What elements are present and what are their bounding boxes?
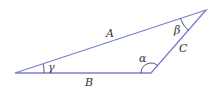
side-label-a: A xyxy=(105,27,114,40)
angle-beta-arc xyxy=(181,19,189,31)
angle-label-gamma: γ xyxy=(48,61,55,74)
angle-label-alpha: α xyxy=(139,52,147,65)
triangle xyxy=(15,10,206,73)
triangle-diagram: A B C α β γ xyxy=(0,0,219,92)
angle-label-beta: β xyxy=(173,24,180,37)
side-label-c: C xyxy=(179,42,188,55)
side-label-b: B xyxy=(84,76,93,89)
angle-gamma-arc xyxy=(43,64,44,73)
